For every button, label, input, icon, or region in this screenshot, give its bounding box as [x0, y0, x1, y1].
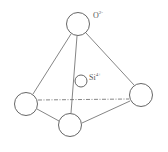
silicon-atom-center	[75, 75, 87, 87]
edge-left-right-hidden	[38, 99, 129, 100]
silicon-charge: 4+	[96, 72, 101, 77]
oxygen-atom-top	[67, 13, 90, 36]
edge-top-left	[33, 34, 71, 94]
silicon-symbol: Si	[89, 73, 96, 82]
oxygen-atom-front	[59, 114, 82, 137]
edge-left-front	[37, 109, 59, 121]
oxygen-atom-right	[130, 84, 153, 107]
silicon-label: Si4+	[89, 72, 101, 82]
oxygen-atom-left	[15, 93, 38, 116]
tetrahedron-diagram: O2- Si4+	[0, 0, 168, 152]
edge-front-right	[82, 101, 130, 123]
edge-top-front	[71, 36, 77, 113]
oxygen-label: O2-	[93, 10, 103, 20]
oxygen-charge: 2-	[99, 10, 103, 15]
tetrahedron-svg	[0, 0, 168, 152]
